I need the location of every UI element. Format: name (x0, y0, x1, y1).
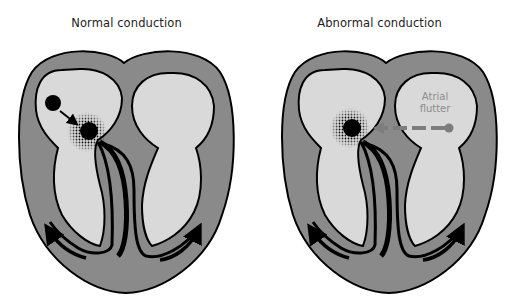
heart-diagram-abnormal (253, 0, 507, 306)
sinoatrial-node (45, 95, 61, 111)
panel-abnormal-conduction: Abnormal conduction Atrial flutter (253, 0, 506, 306)
atrial-flutter-line1: Atrial (418, 91, 452, 103)
atrial-flutter-line2: flutter (418, 103, 452, 115)
av-node (343, 119, 361, 137)
heart-diagram-normal (0, 0, 253, 306)
panel-normal-conduction: Normal conduction (0, 0, 253, 306)
flutter-origin (445, 124, 454, 133)
atrial-flutter-label: Atrial flutter (418, 91, 452, 115)
av-node (80, 122, 98, 140)
